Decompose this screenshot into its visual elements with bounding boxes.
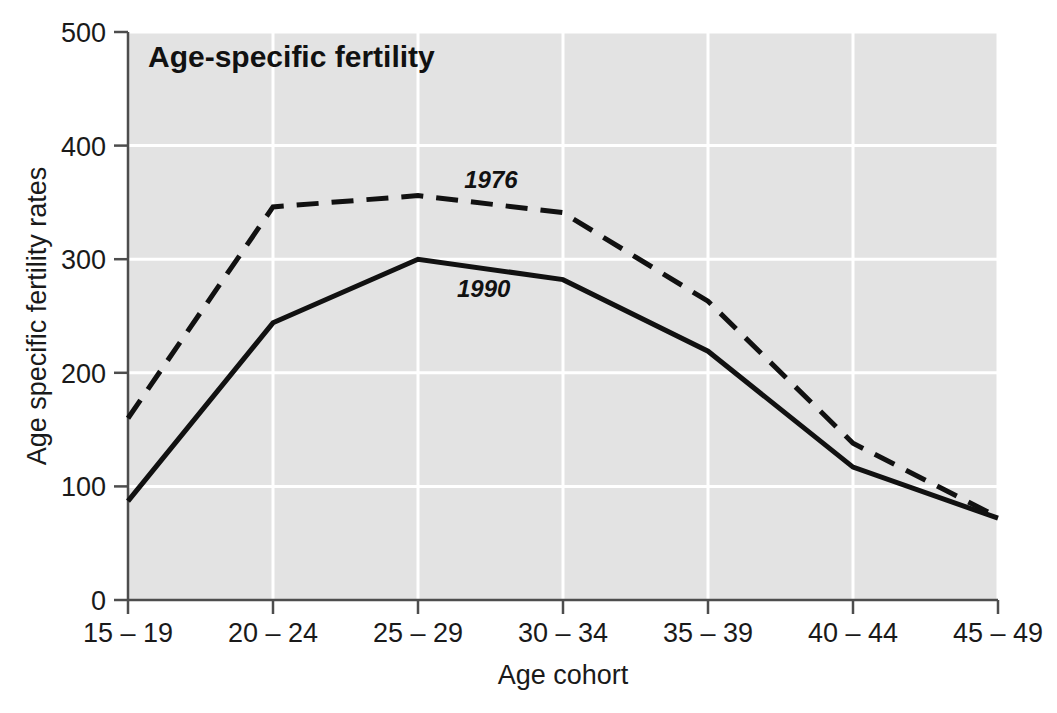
chart-title: Age-specific fertility	[148, 40, 435, 73]
x-tick-label: 40 – 44	[808, 618, 898, 648]
y-tick-label: 500	[61, 18, 106, 48]
y-tick-label: 0	[91, 586, 106, 616]
y-tick-label: 100	[61, 472, 106, 502]
y-tick-label: 400	[61, 132, 106, 162]
x-tick-label: 15 – 19	[83, 618, 173, 648]
chart-figure: 0100200300400500 15 – 1920 – 2425 – 2930…	[0, 0, 1057, 713]
series-label-1990: 1990	[457, 275, 511, 302]
fertility-line-chart: 0100200300400500 15 – 1920 – 2425 – 2930…	[0, 0, 1057, 713]
x-tick-label: 30 – 34	[518, 618, 608, 648]
series-label-1976: 1976	[464, 166, 518, 193]
x-tick-label: 35 – 39	[663, 618, 753, 648]
y-axis-title: Age specific fertility rates	[22, 167, 52, 466]
y-tick-label: 300	[61, 245, 106, 275]
x-tick-label: 45 – 49	[953, 618, 1043, 648]
y-tick-label: 200	[61, 359, 106, 389]
x-axis-title: Age cohort	[498, 660, 629, 690]
x-tick-label: 25 – 29	[373, 618, 463, 648]
x-tick-label: 20 – 24	[228, 618, 318, 648]
